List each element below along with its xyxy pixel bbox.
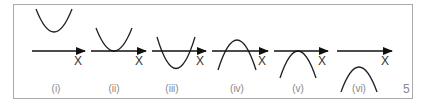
parabola-up-two-roots: [157, 37, 195, 69]
x-axis-label: X: [318, 54, 326, 68]
parabola-up-no-roots: [36, 9, 72, 32]
parabola-down-tangent: [280, 51, 316, 78]
panel-i: X (i): [32, 9, 85, 94]
x-axis-label: X: [74, 54, 82, 68]
page-number: 5: [403, 82, 410, 96]
panel-iv: X (iv): [212, 40, 268, 94]
quadratic-graphs-diagram: X (i) X (ii) X (iii) X (iv) X (v) X (vi)…: [0, 0, 426, 105]
x-axis-label: X: [196, 54, 204, 68]
panel-v: X (v): [274, 51, 328, 94]
panel-label: (iii): [165, 83, 178, 94]
panel-label: (v): [292, 83, 304, 94]
panel-ii: X (ii): [91, 28, 146, 94]
panel-label: (ii): [108, 83, 119, 94]
x-axis-label: X: [258, 54, 266, 68]
panel-vi: X (vi): [337, 51, 392, 94]
panel-label: (i): [52, 83, 61, 94]
panel-label: (iv): [230, 83, 244, 94]
parabola-down-two-roots: [218, 40, 256, 70]
panel-iii: X (iii): [152, 37, 206, 94]
x-axis-label: X: [381, 54, 389, 68]
x-axis-label: X: [135, 54, 143, 68]
parabola-up-tangent: [96, 28, 132, 51]
panel-label: (vi): [352, 83, 366, 94]
